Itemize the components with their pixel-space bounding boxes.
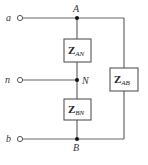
terminal-label-n: n [5, 74, 10, 85]
terminal-n-icon [17, 77, 22, 82]
terminal-b-icon [17, 136, 22, 141]
node-B-dot-icon [75, 137, 79, 141]
node-label-B: B [73, 142, 79, 153]
node-N-dot-icon [75, 78, 79, 82]
impedance-ZAN: ZAN [64, 39, 91, 62]
terminal-label-a: a [6, 12, 11, 23]
circuit-diagram: a n b A N B ZAN ZBN ZAB [0, 0, 148, 165]
impedance-ZAB: ZAB [110, 68, 138, 91]
node-label-A: A [72, 3, 80, 14]
impedance-ZBN: ZBN [64, 99, 91, 120]
terminal-label-b: b [6, 133, 11, 144]
terminal-a-icon [17, 15, 22, 20]
node-label-N: N [81, 75, 90, 86]
node-A-dot-icon [75, 16, 79, 20]
